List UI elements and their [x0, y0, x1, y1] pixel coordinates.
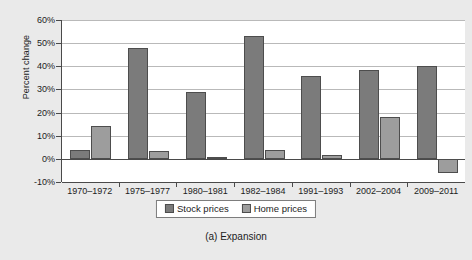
bar-home-prices [149, 151, 169, 159]
x-axis-tick-label: 1970–1972 [67, 186, 112, 196]
y-axis-tick-label: 40% [37, 61, 55, 71]
bar-home-prices [380, 117, 400, 159]
x-axis-tick-label: 1991–1993 [298, 186, 343, 196]
x-axis-line [62, 182, 465, 183]
legend-swatch-icon-stock-prices [165, 204, 174, 213]
bar-stock-prices [359, 70, 379, 159]
y-axis-tick-label: 30% [37, 84, 55, 94]
legend-label-home-prices: Home prices [254, 203, 307, 214]
plot-inner [62, 20, 465, 182]
y-axis-tick-label: 50% [37, 38, 55, 48]
bar-stock-prices [128, 48, 148, 159]
gridline [62, 136, 465, 137]
chart-figure: Percent change 60%50%40%30%20%10%0%-10% … [0, 0, 472, 260]
bar-stock-prices [186, 92, 206, 159]
y-axis-tick-label: -10% [34, 177, 55, 187]
figure-caption: (a) Expansion [0, 231, 472, 242]
gridline [62, 20, 465, 21]
bar-home-prices [265, 150, 285, 159]
chart-legend: Stock prices Home prices [156, 200, 316, 218]
y-axis-tick-label: 20% [37, 108, 55, 118]
y-axis-tick-label: 60% [37, 15, 55, 25]
gridline [62, 66, 465, 67]
zero-axis-line [62, 159, 465, 160]
bar-stock-prices [301, 76, 321, 159]
bar-home-prices [438, 159, 458, 173]
bar-home-prices [322, 155, 342, 158]
bar-stock-prices [244, 36, 264, 159]
legend-item-home-prices[interactable]: Home prices [242, 203, 307, 214]
gridline [62, 43, 465, 44]
y-axis-tick-label: 10% [37, 131, 55, 141]
bar-home-prices [207, 157, 227, 159]
x-axis-tick-label: 1980–1981 [183, 186, 228, 196]
legend-swatch-icon-home-prices [242, 204, 251, 213]
bar-stock-prices [70, 150, 90, 159]
gridline [62, 89, 465, 90]
y-axis-title: Percent change [21, 0, 31, 137]
y-axis-tick [56, 182, 61, 183]
bar-home-prices [91, 126, 111, 158]
legend-label-stock-prices: Stock prices [177, 203, 229, 214]
x-axis-tick-label: 2009–2011 [414, 186, 458, 196]
plot-area [61, 20, 465, 182]
bar-stock-prices [417, 66, 437, 159]
y-axis-tick-label: 0% [42, 154, 55, 164]
legend-item-stock-prices[interactable]: Stock prices [165, 203, 229, 214]
gridline [62, 113, 465, 114]
x-axis-tick-label: 1975–1977 [125, 186, 170, 196]
x-axis-tick-label: 1982–1984 [240, 186, 285, 196]
x-axis-tick-label: 2002–2004 [356, 186, 401, 196]
